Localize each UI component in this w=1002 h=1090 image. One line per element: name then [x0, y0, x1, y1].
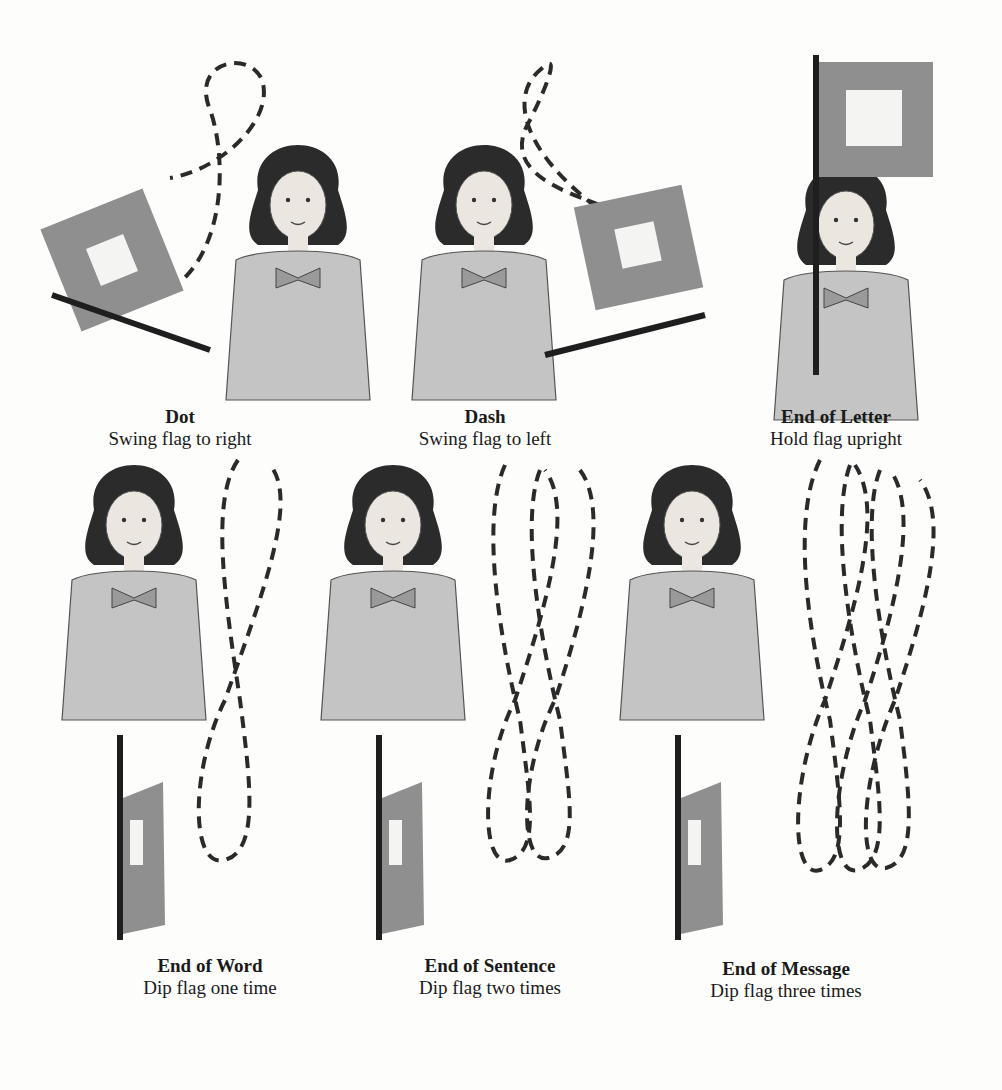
panel-end-of-word — [62, 460, 281, 940]
caption-dot: Dot Swing flag to right — [60, 406, 300, 450]
caption-end-of-message: End of Message Dip flag three times — [656, 958, 916, 1002]
panel-dash — [412, 64, 705, 400]
caption-description: Dip flag one time — [90, 977, 330, 999]
motion-path-end-of-sentence-2 — [527, 470, 594, 858]
caption-description: Swing flag to right — [60, 428, 300, 450]
caption-title: Dot — [60, 406, 300, 428]
panel-dot — [40, 63, 370, 400]
caption-dash: Dash Swing flag to left — [365, 406, 605, 450]
panel-end-of-message — [620, 460, 934, 940]
caption-end-of-word: End of Word Dip flag one time — [90, 955, 330, 999]
motion-path-dash — [522, 64, 600, 210]
panel-end-of-letter — [774, 55, 933, 420]
caption-description: Hold flag upright — [716, 428, 956, 450]
motion-path-end-of-sentence-1 — [488, 465, 557, 861]
motion-path-end-of-word — [199, 460, 281, 861]
caption-title: End of Word — [90, 955, 330, 977]
caption-end-of-sentence: End of Sentence Dip flag two times — [360, 955, 620, 999]
caption-description: Swing flag to left — [365, 428, 605, 450]
caption-title: End of Letter — [716, 406, 956, 428]
panel-end-of-sentence — [321, 465, 594, 940]
caption-description: Dip flag two times — [360, 977, 620, 999]
caption-description: Dip flag three times — [656, 980, 916, 1002]
motion-path-end-of-message-3 — [866, 470, 934, 868]
illustration — [0, 0, 1002, 1090]
caption-end-of-letter: End of Letter Hold flag upright — [716, 406, 956, 450]
caption-title: End of Message — [656, 958, 916, 980]
caption-title: Dash — [365, 406, 605, 428]
caption-title: End of Sentence — [360, 955, 620, 977]
motion-path-end-of-message-2 — [837, 465, 904, 870]
